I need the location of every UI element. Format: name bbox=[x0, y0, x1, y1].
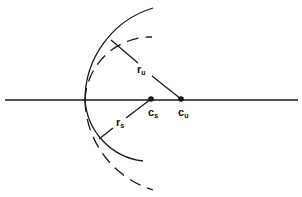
small-circle-solid-arc bbox=[85, 100, 143, 161]
label-r-s: rs bbox=[116, 116, 124, 129]
large-circle-solid-arc bbox=[85, 8, 153, 100]
radius-u-line-upper bbox=[111, 40, 138, 63]
circle-geometry-diagram: ru rs cs cu bbox=[0, 0, 302, 197]
label-c-u: cu bbox=[178, 106, 188, 119]
label-r-u: ru bbox=[137, 63, 146, 76]
large-circle-dashed-arc bbox=[85, 100, 153, 190]
radius-u-line-lower bbox=[152, 76, 181, 99]
point-c-u bbox=[178, 96, 184, 102]
label-c-s: cs bbox=[148, 106, 158, 119]
point-c-s bbox=[148, 96, 154, 102]
radius-s-line-lower bbox=[99, 128, 113, 139]
